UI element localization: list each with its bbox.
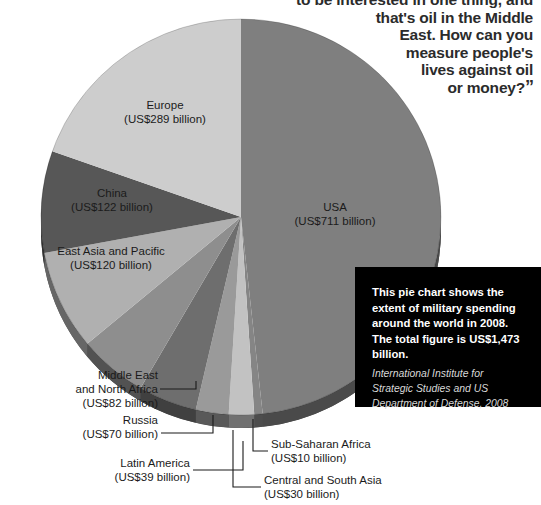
callout-label-latin-america: Latin America (US$39 billion) [0, 456, 190, 484]
pull-quote: to be interested in one thing, and that'… [233, 0, 533, 97]
closing-quote-mark: ” [525, 77, 533, 97]
caption-box: This pie chart shows the extent of milit… [355, 267, 541, 407]
slice-label-europe: Europe (US$289 billion) [96, 98, 234, 126]
leader-line-mena [160, 381, 196, 389]
infographic-canvas: USA (US$711 billion) Europe (US$289 bill… [0, 0, 541, 505]
leader-line-ssa [253, 419, 268, 451]
caption-description: This pie chart shows the extent of milit… [372, 285, 525, 363]
slice-label-east-asia-and-pacific: East Asia and Pacific (US$120 billion) [28, 244, 194, 272]
pull-quote-text: to be interested in one thing, and that'… [296, 0, 533, 96]
leader-line-csa [233, 430, 261, 487]
callout-label-sub-saharan-africa: Sub-Saharan Africa (US$10 billion) [271, 437, 451, 465]
slice-label-usa: USA (US$711 billion) [278, 200, 392, 228]
leader-line-russia [161, 415, 213, 433]
caption-source: International Institute for Strategic St… [372, 366, 525, 411]
slice-label-china: China (US$122 billion) [46, 186, 178, 214]
leader-line-latam [193, 441, 243, 470]
callout-label-central-and-south-asia: Central and South Asia (US$30 billion) [264, 473, 464, 501]
callout-label-middle-east-and-north-africa: Middle East and North Africa (US$82 bill… [0, 368, 158, 410]
callout-label-russia: Russia (US$70 billion) [0, 413, 158, 441]
